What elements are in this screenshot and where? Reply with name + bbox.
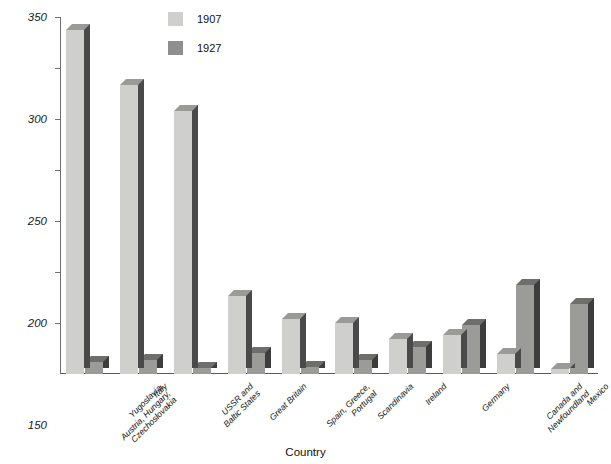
y-tick: 300 bbox=[55, 68, 60, 69]
bar-group bbox=[497, 17, 534, 374]
legend-item-1907: 1907 bbox=[168, 12, 221, 26]
bar-group bbox=[66, 17, 103, 374]
x-category-label: Ireland bbox=[423, 382, 448, 407]
y-tick: 200 bbox=[55, 170, 60, 171]
x-category-label: USSR and Baltic States bbox=[214, 382, 261, 429]
y-tick: 250 bbox=[55, 119, 60, 120]
legend-swatch-1907-icon bbox=[168, 12, 183, 26]
legend-label-1927: 1927 bbox=[197, 42, 221, 54]
y-tick-label: 350 bbox=[28, 11, 47, 23]
y-tick: 350 bbox=[55, 17, 60, 18]
y-tick-label: 250 bbox=[28, 215, 47, 227]
bar-group bbox=[551, 17, 588, 374]
bar-group bbox=[335, 17, 372, 374]
legend-swatch-1927-icon bbox=[168, 41, 183, 55]
bar-1907 bbox=[282, 319, 300, 374]
chart-legend: 1907 1927 bbox=[168, 12, 221, 70]
x-category-label: Mexico bbox=[585, 382, 611, 408]
bar-group bbox=[389, 17, 426, 374]
bar-1907 bbox=[174, 111, 192, 374]
x-category-label: Yugoslavia, Austria, Hungary, Czechoslov… bbox=[112, 382, 179, 449]
bar-group bbox=[443, 17, 480, 374]
y-tick-label: 150 bbox=[28, 419, 47, 431]
x-category-label: Germany bbox=[480, 382, 512, 414]
y-tick: 50 bbox=[55, 323, 60, 324]
y-tick: 150 bbox=[55, 221, 60, 222]
bar-group bbox=[282, 17, 319, 374]
bar-group bbox=[120, 17, 157, 374]
y-axis-line bbox=[60, 17, 61, 374]
legend-label-1907: 1907 bbox=[197, 13, 221, 25]
bar-1907 bbox=[551, 369, 569, 374]
plot-area: 50100150200250300350 bbox=[60, 17, 598, 374]
x-axis-title: Country bbox=[0, 446, 611, 458]
bar-1907 bbox=[497, 354, 515, 374]
x-category-label: Great Britain bbox=[268, 382, 309, 423]
legend-item-1927: 1927 bbox=[168, 41, 221, 55]
immigration-bar-chart: Immigrants (in Thousands) 50100150200250… bbox=[0, 0, 611, 464]
bar-1907 bbox=[120, 85, 138, 374]
bar-group bbox=[228, 17, 265, 374]
x-category-label: Scandinavia bbox=[376, 382, 416, 422]
x-category-label: Canada and Newfoundland bbox=[539, 382, 591, 434]
y-tick-label: 300 bbox=[28, 113, 47, 125]
bar-1907 bbox=[389, 339, 407, 374]
bar-1907 bbox=[66, 30, 84, 374]
y-tick-label: 200 bbox=[28, 317, 47, 329]
x-category-label: Spain, Greece, Portugal bbox=[325, 382, 379, 436]
bar-1907 bbox=[335, 323, 353, 374]
bar-1907 bbox=[443, 335, 461, 374]
bar-1927 bbox=[193, 368, 211, 374]
y-tick: 100 bbox=[55, 272, 60, 273]
bar-group bbox=[174, 17, 211, 374]
bar-1907 bbox=[228, 296, 246, 374]
